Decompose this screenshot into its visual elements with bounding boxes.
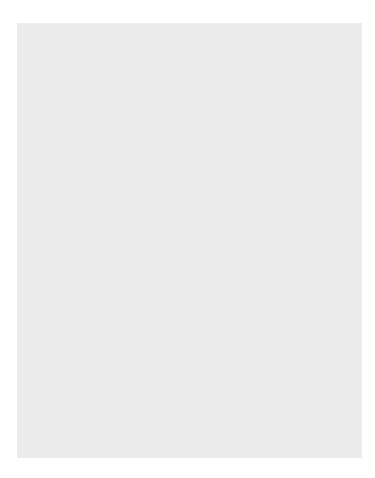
connectors: [0, 0, 375, 478]
